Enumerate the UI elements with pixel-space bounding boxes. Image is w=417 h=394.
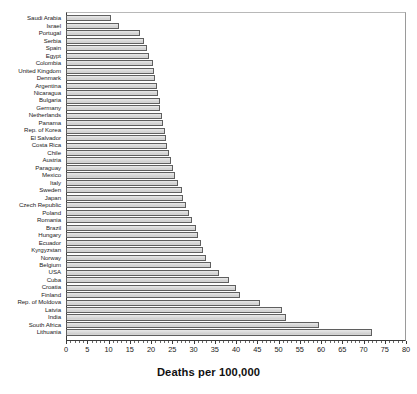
bar bbox=[66, 314, 286, 320]
bar bbox=[66, 187, 182, 193]
bar bbox=[66, 90, 158, 96]
bar-row bbox=[66, 60, 406, 67]
x-tick-label: 25 bbox=[168, 345, 176, 354]
y-axis-label: Chile bbox=[47, 149, 61, 156]
bar bbox=[66, 83, 157, 89]
x-tick-label: 50 bbox=[274, 345, 282, 354]
x-tick-label: 10 bbox=[104, 345, 112, 354]
y-axis-label: Austria bbox=[42, 156, 61, 163]
bar bbox=[66, 247, 203, 253]
y-axis-label: USA bbox=[49, 268, 61, 275]
x-tick-label: 40 bbox=[232, 345, 240, 354]
bar bbox=[66, 45, 147, 51]
x-tick-minor bbox=[368, 341, 369, 343]
x-tick-minor bbox=[296, 341, 297, 343]
bar-row bbox=[66, 37, 406, 44]
x-tick-minor bbox=[185, 341, 186, 343]
bar-row bbox=[66, 112, 406, 119]
x-tick-minor bbox=[274, 341, 275, 343]
x-tick-minor bbox=[262, 341, 263, 343]
x-tick-minor bbox=[219, 341, 220, 343]
x-tick-label: 0 bbox=[64, 345, 68, 354]
x-tick-minor bbox=[313, 341, 314, 343]
x-axis-title: Deaths per 100,000 bbox=[0, 366, 417, 378]
y-axis-label: Ecuador bbox=[39, 239, 61, 246]
y-axis-label: Argentina bbox=[35, 82, 61, 89]
x-tick-minor bbox=[402, 341, 403, 343]
x-tick-minor bbox=[338, 341, 339, 343]
x-tick-minor bbox=[389, 341, 390, 343]
x-tick-minor bbox=[164, 341, 165, 343]
bar bbox=[66, 285, 236, 291]
bar bbox=[66, 23, 119, 29]
bar-row bbox=[66, 105, 406, 112]
x-tick-minor bbox=[160, 341, 161, 343]
y-axis-label: Lithuania bbox=[37, 328, 61, 335]
bar-row bbox=[66, 292, 406, 299]
bar bbox=[66, 15, 111, 21]
x-tick-minor bbox=[359, 341, 360, 343]
x-tick-minor bbox=[398, 341, 399, 343]
bar-row bbox=[66, 97, 406, 104]
y-axis-label: Nicaragua bbox=[34, 89, 61, 96]
x-tick-label: 65 bbox=[338, 345, 346, 354]
x-tick-minor bbox=[177, 341, 178, 343]
x-tick-label: 70 bbox=[359, 345, 367, 354]
bar-row bbox=[66, 247, 406, 254]
x-tick-minor bbox=[249, 341, 250, 343]
bar bbox=[66, 255, 206, 261]
x-tick-minor bbox=[253, 341, 254, 343]
bar-row bbox=[66, 134, 406, 141]
bar bbox=[66, 30, 140, 36]
bar-row bbox=[66, 329, 406, 336]
y-axis-label: Panama bbox=[39, 119, 61, 126]
x-tick-minor bbox=[113, 341, 114, 343]
bar-row bbox=[66, 314, 406, 321]
x-tick-major bbox=[321, 341, 322, 344]
bar-row bbox=[66, 120, 406, 127]
x-tick-minor bbox=[100, 341, 101, 343]
bar bbox=[66, 300, 260, 306]
bar-row bbox=[66, 254, 406, 261]
y-axis-label: Czech Republic bbox=[19, 201, 61, 208]
bar-row bbox=[66, 22, 406, 29]
bar-row bbox=[66, 82, 406, 89]
x-tick-label: 15 bbox=[126, 345, 134, 354]
x-tick-minor bbox=[355, 341, 356, 343]
y-axis-label: Poland bbox=[42, 209, 61, 216]
x-tick-minor bbox=[70, 341, 71, 343]
bar bbox=[66, 292, 240, 298]
bar-row bbox=[66, 15, 406, 22]
x-tick-major bbox=[172, 341, 173, 344]
bar bbox=[66, 128, 165, 134]
x-tick-minor bbox=[198, 341, 199, 343]
bar bbox=[66, 172, 175, 178]
y-axis-label: Cuba bbox=[47, 276, 61, 283]
y-axis-label: United Kingdom bbox=[18, 67, 61, 74]
bar bbox=[66, 75, 155, 81]
bar bbox=[66, 60, 153, 66]
x-tick-minor bbox=[228, 341, 229, 343]
bar-row bbox=[66, 67, 406, 74]
bar bbox=[66, 68, 154, 74]
y-axis-label: Germany bbox=[36, 104, 61, 111]
x-tick-minor bbox=[206, 341, 207, 343]
bar-row bbox=[66, 52, 406, 59]
bar-series bbox=[66, 12, 406, 341]
x-tick-major bbox=[194, 341, 195, 344]
y-axis-label: Latvia bbox=[45, 306, 61, 313]
bar-row bbox=[66, 306, 406, 313]
x-tick-major bbox=[151, 341, 152, 344]
y-axis-label: Romania bbox=[37, 216, 61, 223]
x-tick-minor bbox=[347, 341, 348, 343]
bar-row bbox=[66, 209, 406, 216]
bar-row bbox=[66, 299, 406, 306]
y-axis-label: Colombia bbox=[36, 59, 61, 66]
x-tick-minor bbox=[245, 341, 246, 343]
x-tick-minor bbox=[121, 341, 122, 343]
bar-chart: Saudi ArabiaIsraelPortugalSerbiaSpainEgy… bbox=[0, 0, 417, 394]
x-tick-label: 30 bbox=[189, 345, 197, 354]
x-tick-major bbox=[130, 341, 131, 344]
x-tick-minor bbox=[325, 341, 326, 343]
x-tick-major bbox=[406, 341, 407, 344]
